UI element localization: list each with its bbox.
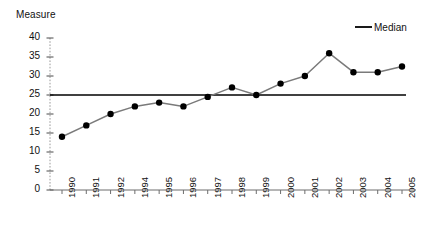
data-point-marker: [399, 63, 405, 69]
data-point-marker: [107, 111, 113, 117]
data-point-marker: [205, 94, 211, 100]
data-point-marker: [253, 92, 259, 98]
data-point-marker: [350, 69, 356, 75]
data-point-marker: [326, 50, 332, 56]
data-point-marker: [132, 103, 138, 109]
data-point-marker: [277, 80, 283, 86]
line-chart: Measure 0510152025303540 199019911992199…: [0, 0, 425, 236]
data-point-marker: [59, 134, 65, 140]
data-point-marker: [83, 122, 89, 128]
data-point-marker: [180, 103, 186, 109]
data-point-marker: [229, 84, 235, 90]
plot-area: [0, 0, 425, 236]
data-point-marker: [375, 69, 381, 75]
data-point-marker: [302, 73, 308, 79]
data-point-marker: [156, 99, 162, 105]
legend-label-median: Median: [374, 22, 407, 33]
